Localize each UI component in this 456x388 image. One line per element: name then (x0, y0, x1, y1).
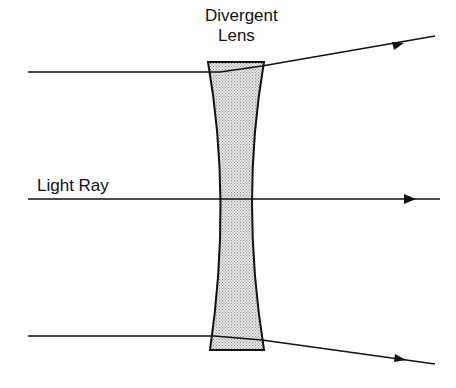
lens-title-line2: Lens (218, 27, 255, 45)
lens-title-line1: Divergent (205, 7, 278, 25)
arrow-bottom-icon (394, 354, 406, 362)
divergent-lens (208, 62, 264, 350)
light-ray-label: Light Ray (37, 177, 109, 195)
arrow-middle-icon (404, 194, 416, 204)
arrow-top-icon (392, 42, 404, 50)
